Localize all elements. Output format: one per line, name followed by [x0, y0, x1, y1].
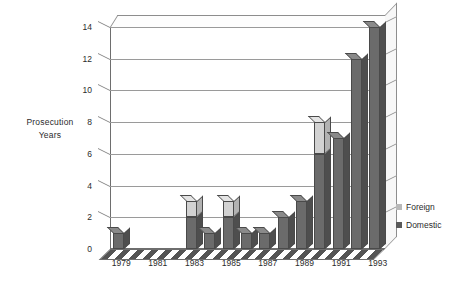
- y-tick-label-6: 6: [52, 149, 92, 159]
- x-tick-label-1979: 1979: [112, 258, 131, 268]
- bar-side-face: [344, 133, 350, 249]
- bar-group-1990[interactable]: [314, 122, 325, 249]
- bar-side-face: [307, 196, 313, 249]
- legend-item-domestic[interactable]: Domestic: [396, 220, 458, 230]
- bar-front-face: [113, 233, 124, 249]
- bar-segment-foreign-1985[interactable]: [223, 201, 234, 217]
- bar-group-1985[interactable]: [223, 201, 234, 249]
- bar-group-1992[interactable]: [351, 59, 362, 249]
- plot-back-wall-top: [110, 15, 392, 27]
- bar-group-1993[interactable]: [369, 27, 380, 249]
- bar-side-face: [380, 22, 386, 249]
- bar-front-face: [223, 201, 234, 217]
- y-tick-label-0: 0: [52, 244, 92, 254]
- y-tick-label-12: 12: [52, 54, 92, 64]
- bar-segment-domestic-1988[interactable]: [278, 217, 289, 249]
- bar-front-face: [314, 122, 325, 154]
- x-tick-label-1981: 1981: [148, 258, 167, 268]
- y-tick-nub-4: [98, 179, 110, 186]
- bar-side-face: [362, 53, 368, 249]
- bar-segment-domestic-1991[interactable]: [333, 138, 344, 249]
- bar-side-face: [270, 228, 276, 249]
- x-axis-tick-labels: 19791981198319851987198919911993: [110, 258, 398, 274]
- bar-front-face: [296, 201, 307, 249]
- x-tick-label-1985: 1985: [222, 258, 241, 268]
- bar-segment-domestic-1984[interactable]: [204, 233, 215, 249]
- y-tick-label-10: 10: [52, 85, 92, 95]
- bar-group-1988[interactable]: [278, 217, 289, 249]
- bar-group-1984[interactable]: [204, 233, 215, 249]
- legend-swatch-icon: [396, 222, 402, 228]
- bar-front-face: [369, 27, 380, 249]
- bar-front-face: [259, 233, 270, 249]
- bar-segment-domestic-1987[interactable]: [259, 233, 270, 249]
- x-tick-label-1983: 1983: [185, 258, 204, 268]
- y-tick-label-2: 2: [52, 212, 92, 222]
- y-tick-nub-12: [98, 53, 110, 60]
- legend-item-foreign[interactable]: Foreign: [396, 202, 458, 212]
- bar-group-1989[interactable]: [296, 201, 307, 249]
- bar-front-face: [186, 201, 197, 217]
- y-tick-label-4: 4: [52, 181, 92, 191]
- y-tick-nub-2: [98, 211, 110, 218]
- bar-front-face: [241, 233, 252, 249]
- bar-side-face: [215, 228, 221, 249]
- bar-group-1986[interactable]: [241, 233, 252, 249]
- bar-group-1991[interactable]: [333, 138, 344, 249]
- bar-segment-domestic-1992[interactable]: [351, 59, 362, 249]
- bar-segment-domestic-1979[interactable]: [113, 233, 124, 249]
- bar-front-face: [186, 217, 197, 249]
- bar-front-face: [314, 154, 325, 249]
- bar-front-face: [278, 217, 289, 249]
- bar-side-face: [124, 228, 130, 249]
- y-tick-nub-6: [98, 148, 110, 155]
- chart-legend: ForeignDomestic: [396, 202, 458, 238]
- bar-segment-domestic-1989[interactable]: [296, 201, 307, 249]
- x-tick-label-1991: 1991: [332, 258, 351, 268]
- bar-series-container: [110, 27, 385, 249]
- x-tick-label-1989: 1989: [295, 258, 314, 268]
- bar-front-face: [333, 138, 344, 249]
- legend-item-label: Domestic: [406, 220, 441, 230]
- bar-segment-foreign-1990[interactable]: [314, 122, 325, 154]
- y-axis-tick-labels: 02468101214: [52, 27, 92, 249]
- x-tick-label-1987: 1987: [258, 258, 277, 268]
- x-tick-label-1993: 1993: [368, 258, 387, 268]
- y-tick-nub-14: [98, 21, 110, 28]
- bar-side-face: [325, 148, 331, 249]
- bar-chart: Prosecution Years 02468101214 1979198119…: [0, 0, 459, 282]
- bar-side-face: [289, 212, 295, 249]
- legend-swatch-icon: [396, 204, 402, 210]
- y-tick-label-8: 8: [52, 117, 92, 127]
- y-tick-label-14: 14: [52, 22, 92, 32]
- y-tick-nub-8: [98, 116, 110, 123]
- bar-segment-domestic-1993[interactable]: [369, 27, 380, 249]
- y-tick-nub-10: [98, 84, 110, 91]
- bar-front-face: [204, 233, 215, 249]
- bar-segment-domestic-1985[interactable]: [223, 217, 234, 249]
- bar-group-1983[interactable]: [186, 201, 197, 249]
- legend-item-label: Foreign: [406, 202, 435, 212]
- bar-segment-domestic-1986[interactable]: [241, 233, 252, 249]
- bar-segment-domestic-1990[interactable]: [314, 154, 325, 249]
- bar-group-1979[interactable]: [113, 233, 124, 249]
- bar-segment-foreign-1983[interactable]: [186, 201, 197, 217]
- bar-front-face: [351, 59, 362, 249]
- bar-group-1987[interactable]: [259, 233, 270, 249]
- bar-front-face: [223, 217, 234, 249]
- bar-segment-domestic-1983[interactable]: [186, 217, 197, 249]
